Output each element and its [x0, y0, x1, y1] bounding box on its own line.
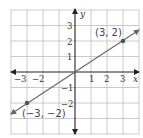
- y-tick-labels: 3 2 1 −1 −2: [61, 21, 74, 109]
- tick-y-3: 3: [67, 21, 72, 31]
- tick-x-2: 2: [104, 74, 109, 84]
- coordinate-plane: −3 −2 1 2 3 3 2 1 −1 −2 y x (3, 2) (−3, …: [0, 0, 143, 138]
- tick-y-2: 2: [67, 37, 72, 47]
- tick-y-neg1: −1: [61, 83, 74, 93]
- y-axis-label: y: [79, 9, 86, 19]
- point-neg3-neg2: [25, 101, 30, 106]
- tick-x-neg2: −2: [32, 74, 45, 84]
- tick-x-3: 3: [120, 74, 125, 84]
- point-3-2: [121, 39, 126, 44]
- tick-x-1: 1: [89, 74, 94, 84]
- tick-y-1: 1: [67, 52, 72, 62]
- x-axis-label: x: [133, 74, 138, 84]
- point-label-3-2: (3, 2): [95, 27, 122, 38]
- point-label-neg3-neg2: (−3, −2): [22, 108, 66, 119]
- tick-x-neg3: −3: [14, 74, 27, 84]
